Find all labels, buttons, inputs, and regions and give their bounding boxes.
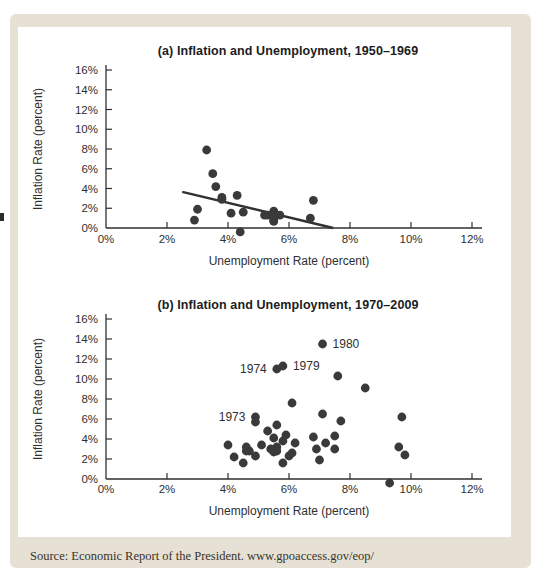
y-axis-title: Inflation Rate (percent) [31,338,45,460]
y-tick-label: 0% [81,222,98,234]
data-point [239,208,248,217]
y-tick-label: 12% [75,104,98,116]
data-point [236,228,245,237]
y-tick-label: 0% [81,473,98,485]
x-tick-label: 0% [98,483,115,495]
data-point [394,443,403,452]
data-point [190,216,199,225]
y-tick-label: 14% [75,333,98,345]
y-tick-label: 16% [75,64,98,76]
data-point [269,448,278,457]
data-point [306,214,315,223]
x-tick-label: 2% [159,233,176,245]
y-axis-title: Inflation Rate (percent) [31,88,45,210]
y-tick-label: 8% [81,393,98,405]
data-point [279,362,288,371]
year-label: 1974 [240,362,267,376]
x-tick-label: 4% [220,483,237,495]
y-tick-label: 6% [81,163,98,175]
year-label: 1980 [333,337,360,351]
data-point [279,437,288,446]
data-point [336,417,345,426]
data-point [361,384,370,393]
x-tick-label: 0% [98,233,115,245]
y-tick-label: 10% [75,123,98,135]
data-point [291,439,300,448]
data-point [242,447,251,456]
y-tick-label: 4% [81,183,98,195]
data-point [397,413,406,422]
data-point [309,196,318,205]
data-point [330,432,339,441]
x-tick-label: 4% [220,233,237,245]
data-point [321,439,330,448]
year-label: 1973 [219,410,246,424]
data-point [239,459,248,468]
data-point [275,211,284,220]
data-point [315,456,324,465]
x-tick-label: 12% [460,483,483,495]
y-tick-label: 2% [81,202,98,214]
x-tick-label: 6% [281,233,298,245]
data-point [227,209,236,218]
data-point [318,410,327,419]
data-point [263,427,272,436]
data-point [318,340,327,349]
source-note: Source: Economic Report of the President… [30,549,530,564]
chart-a-scatter-plot: 0%2%4%6%8%10%12%0%2%4%6%8%10%12%14%16%Un… [18,27,511,277]
data-point [401,451,410,460]
data-point [272,421,281,430]
figure-card: (a) Inflation and Unemployment, 1950–196… [10,14,531,568]
y-tick-label: 12% [75,353,98,365]
data-point [211,182,220,191]
x-tick-label: 2% [159,483,176,495]
data-point [333,372,342,381]
y-tick-label: 10% [75,373,98,385]
x-tick-label: 8% [342,233,359,245]
x-tick-label: 6% [281,483,298,495]
data-point [288,399,297,408]
data-point [269,434,278,443]
data-point [285,452,294,461]
data-point [193,205,202,214]
data-point [309,433,318,442]
data-point [208,169,217,178]
figure-panel: (a) Inflation and Unemployment, 1950–196… [18,27,511,537]
data-point [230,453,239,462]
y-tick-label: 4% [81,433,98,445]
x-axis-title: Unemployment Rate (percent) [209,254,370,268]
data-point [224,441,233,450]
y-tick-label: 16% [75,313,98,325]
data-point [257,441,266,450]
y-tick-label: 6% [81,413,98,425]
data-point [385,479,394,488]
data-point [312,445,321,454]
x-axis-title: Unemployment Rate (percent) [209,504,370,518]
y-tick-label: 2% [81,453,98,465]
year-label: 1979 [293,359,320,373]
x-tick-label: 12% [460,233,483,245]
y-tick-label: 8% [81,143,98,155]
y-tick-label: 14% [75,84,98,96]
x-tick-label: 10% [399,233,422,245]
x-tick-label: 8% [342,483,359,495]
data-point [218,193,227,202]
data-point [330,445,339,454]
chart-b-scatter-plot: 0%2%4%6%8%10%12%0%2%4%6%8%10%12%14%16%Un… [18,287,511,532]
page-margin-mark [0,213,4,221]
data-point [233,191,242,200]
data-point [251,413,260,422]
data-point [260,211,269,220]
data-point [279,459,288,468]
x-tick-label: 10% [399,483,422,495]
data-point [202,146,211,155]
